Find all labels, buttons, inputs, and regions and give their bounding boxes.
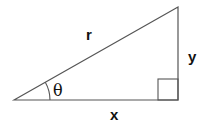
adjacent-label: x — [110, 106, 119, 123]
hypotenuse-label: r — [86, 26, 92, 43]
triangle-shape — [14, 7, 178, 100]
angle-label: θ — [53, 81, 63, 100]
opposite-label: y — [188, 48, 197, 65]
right-angle-marker — [158, 79, 178, 100]
angle-arc — [45, 82, 50, 100]
right-triangle-diagram: r y x θ — [0, 0, 200, 126]
